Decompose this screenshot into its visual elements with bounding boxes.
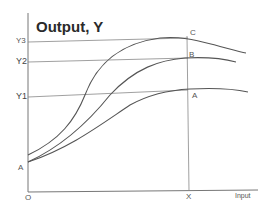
y-intercept-label: A <box>18 163 23 172</box>
curve-b <box>28 58 236 162</box>
y3-level-line <box>28 38 188 42</box>
y2-label: Y2 <box>16 56 27 66</box>
point-c-label: C <box>190 28 196 37</box>
y3-label: Y3 <box>16 36 26 45</box>
chart-title: Output, Y <box>36 18 103 35</box>
curve-a <box>28 88 248 162</box>
x-marker-label: X <box>186 192 191 201</box>
x-axis <box>28 190 258 192</box>
y1-level-line <box>28 90 188 97</box>
point-a-label: A <box>192 91 197 100</box>
curve-c <box>28 37 246 155</box>
x-marker-line <box>187 36 189 191</box>
point-b-label: B <box>189 50 194 59</box>
origin-label: O <box>25 193 31 202</box>
x-axis-label: Input <box>235 192 251 199</box>
y1-label: Y1 <box>16 91 27 101</box>
